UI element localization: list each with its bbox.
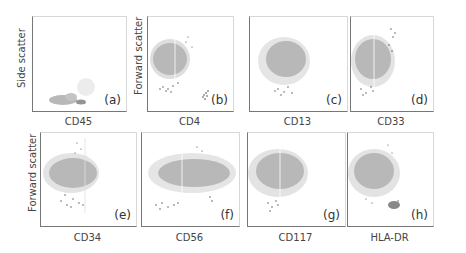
panel-label-a: (a) <box>104 93 121 107</box>
panel-label-f: (f) <box>220 208 234 222</box>
x-axis-label-g: CD117 <box>247 232 344 243</box>
scatter-panel-f: (f) <box>141 132 240 227</box>
scatter-panel-g: (g) <box>247 132 346 227</box>
scatter-panel-d: (d) <box>350 16 434 112</box>
y-axis-label-b: Forward scatter <box>133 17 144 95</box>
x-axis-label-f: CD56 <box>141 232 238 243</box>
x-axis-label-h: HLA-DR <box>347 232 432 243</box>
panel-label-b: (b) <box>211 93 228 107</box>
scatter-panel-e: (e) <box>40 132 137 227</box>
scatter-panel-a: (a) <box>32 16 127 112</box>
x-axis-label-b: CD4 <box>147 116 232 127</box>
scatter-panel-c: (c) <box>249 16 348 112</box>
x-axis-label-a: CD45 <box>32 116 125 127</box>
x-axis-label-d: CD33 <box>350 116 432 127</box>
panel-label-d: (d) <box>411 93 428 107</box>
panel-label-c: (c) <box>326 93 342 107</box>
x-axis-label-c: CD13 <box>249 116 346 127</box>
scatter-panel-h: (h) <box>347 132 434 227</box>
panel-label-h: (h) <box>411 208 428 222</box>
scatter-panel-b: (b) <box>147 16 234 112</box>
y-axis-label-a: Side scatter <box>16 28 27 88</box>
panel-label-e: (e) <box>114 208 131 222</box>
x-axis-label-e: CD34 <box>40 232 135 243</box>
y-axis-label-row2: Forward scatter <box>27 134 38 212</box>
panel-label-g: (g) <box>323 208 340 222</box>
